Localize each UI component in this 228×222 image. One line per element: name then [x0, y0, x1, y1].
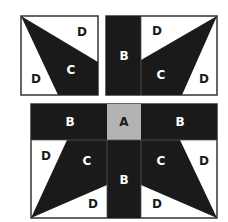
label-d: D	[31, 72, 41, 86]
quilt-block-diagram: D C D B D C D B A B D C B C D D D	[0, 0, 228, 222]
label-c: C	[67, 63, 76, 77]
label-d: D	[199, 154, 209, 168]
label-b: B	[65, 115, 74, 129]
label-d: D	[199, 72, 209, 86]
label-d: D	[152, 197, 162, 211]
top-right-block: B D C D	[106, 16, 217, 95]
label-d: D	[77, 25, 87, 39]
label-b: B	[119, 49, 128, 63]
label-d: D	[41, 149, 51, 163]
top-left-block: D C D	[21, 16, 98, 95]
label-b: B	[175, 115, 184, 129]
label-d: D	[152, 24, 162, 38]
label-a: A	[119, 115, 129, 129]
label-d: D	[88, 197, 98, 211]
label-c: C	[157, 68, 166, 82]
label-c: C	[83, 154, 92, 168]
label-c: C	[157, 154, 166, 168]
bottom-block: B A B D C B C D D D	[31, 104, 217, 218]
label-b: B	[119, 173, 128, 187]
